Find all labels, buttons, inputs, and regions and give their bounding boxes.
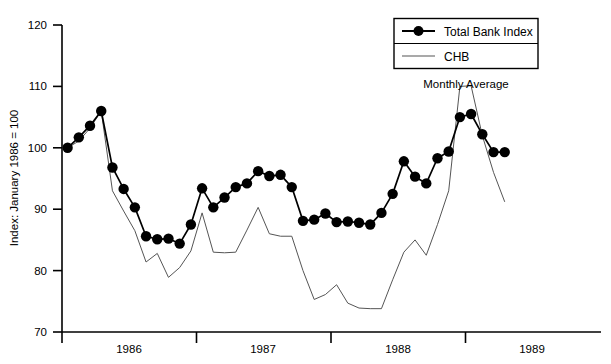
data-point-marker — [85, 121, 95, 131]
data-point-marker — [421, 178, 431, 188]
data-point-marker — [62, 143, 72, 153]
y-tick-label-90: 90 — [34, 203, 47, 215]
data-point-marker — [275, 170, 285, 180]
data-point-marker — [354, 218, 364, 228]
line-chart: 120 110 100 90 80 70 Index: January 1986… — [0, 0, 611, 364]
data-point-marker — [74, 132, 84, 142]
x-tick-label-1988: 1988 — [385, 343, 411, 355]
data-point-marker — [152, 234, 162, 244]
y-axis-ticks — [53, 25, 62, 332]
data-point-marker — [376, 208, 386, 218]
y-tick-label-80: 80 — [34, 265, 47, 277]
data-point-marker — [466, 109, 476, 119]
data-point-marker — [208, 202, 218, 212]
data-point-marker — [130, 202, 140, 212]
data-point-marker — [399, 156, 409, 166]
data-point-marker — [163, 233, 173, 243]
data-point-marker — [443, 146, 453, 156]
data-point-marker — [197, 183, 207, 193]
series-total-bank-index-line — [68, 111, 505, 244]
y-tick-label-110: 110 — [29, 80, 47, 92]
data-point-marker — [298, 216, 308, 226]
data-point-marker — [242, 178, 252, 188]
data-point-marker — [231, 182, 241, 192]
data-point-marker — [141, 231, 151, 241]
legend-label-chb: CHB — [444, 50, 469, 64]
legend-label-total-bank-index: Total Bank Index — [444, 25, 533, 39]
data-point-marker — [410, 171, 420, 181]
legend: Total Bank Index CHB — [394, 19, 538, 69]
data-point-marker — [253, 166, 263, 176]
data-point-marker — [96, 106, 106, 116]
data-point-marker — [500, 147, 510, 157]
data-point-marker — [264, 171, 274, 181]
data-point-marker — [174, 238, 184, 248]
data-point-marker — [455, 112, 465, 122]
y-tick-label-70: 70 — [34, 326, 47, 338]
x-tick-label-1989: 1989 — [519, 343, 545, 355]
data-line — [68, 111, 505, 244]
chart-caption: Monthly Average — [423, 78, 508, 90]
x-tick-label-1987: 1987 — [250, 343, 276, 355]
data-point-marker — [219, 192, 229, 202]
data-point-marker — [186, 219, 196, 229]
y-tick-label-120: 120 — [28, 19, 47, 31]
y-tick-label-100: 100 — [28, 142, 47, 154]
data-point-marker — [488, 147, 498, 157]
data-point-marker — [477, 129, 487, 139]
data-point-marker — [287, 182, 297, 192]
data-line — [68, 86, 505, 309]
data-point-marker — [365, 219, 375, 229]
data-point-marker — [343, 216, 353, 226]
x-axis-ticks — [62, 332, 466, 343]
data-point-marker — [387, 189, 397, 199]
series-total-bank-index-markers — [62, 106, 510, 249]
data-point-marker — [118, 184, 128, 194]
series-chb-line — [68, 86, 505, 309]
legend-marker-icon — [414, 26, 424, 36]
x-tick-label-1986: 1986 — [116, 343, 142, 355]
data-point-marker — [320, 208, 330, 218]
data-point-marker — [432, 153, 442, 163]
chart-container: 120 110 100 90 80 70 Index: January 1986… — [0, 0, 611, 364]
data-point-marker — [331, 217, 341, 227]
data-point-marker — [309, 214, 319, 224]
y-axis-title: Index: January 1986 = 100 — [8, 110, 20, 247]
data-point-marker — [107, 162, 117, 172]
